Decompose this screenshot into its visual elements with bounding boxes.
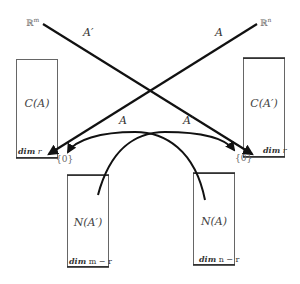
- arrow-A-transpose-curve: [98, 132, 234, 195]
- zero-label-right: {0}: [235, 154, 252, 163]
- dim-label-CA: dim r: [18, 147, 41, 156]
- box-label-NA-transpose: N(A′): [74, 217, 103, 228]
- fundamental-subspaces-diagram: [0, 0, 300, 284]
- space-label-Rn: ℝn: [260, 17, 271, 28]
- dim-label-NA: dim n − r: [199, 255, 239, 264]
- dim-label-CA-transpose: dim r: [263, 146, 286, 155]
- box-label-NA: N(A): [201, 216, 227, 227]
- map-label-A: A: [215, 27, 223, 38]
- arrow-A-curve: [68, 132, 205, 200]
- curve-label-A-transpose: A′: [183, 115, 193, 126]
- box-label-CA: C(A): [25, 98, 50, 109]
- curve-label-A: A: [119, 115, 127, 126]
- map-label-A-transpose: A′: [83, 27, 93, 38]
- zero-label-left: {0}: [56, 155, 73, 164]
- box-label-CA-transpose: C(A′): [250, 98, 277, 109]
- dim-label-NA-transpose: dim m − r: [69, 257, 112, 266]
- space-label-Rm: ℝm: [26, 17, 39, 28]
